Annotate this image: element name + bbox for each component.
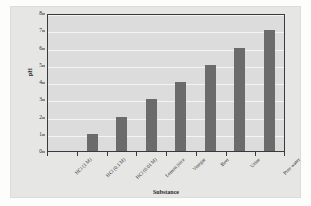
- bar: [146, 99, 157, 151]
- x-axis-tick-label: HCl (1 M): [74, 157, 92, 175]
- bar-slot: [255, 15, 285, 151]
- x-axis-tick-label: Vinegar: [192, 157, 207, 172]
- x-axis-title: Substance: [47, 189, 285, 195]
- bar-slot: [78, 15, 108, 151]
- bars-layer: [48, 15, 284, 151]
- bar: [264, 30, 275, 151]
- y-axis-tick-mark: [42, 152, 45, 153]
- bar: [234, 48, 245, 152]
- bar-slot: [137, 15, 167, 151]
- x-axis-tick-label: HCl (0.01 M): [135, 157, 158, 180]
- bar: [116, 117, 127, 152]
- y-axis-ticks: 012345678: [25, 14, 45, 152]
- chart-panel: pH 012345678 HCl (1 M)HCl (0.1 M)HCl (0.…: [11, 7, 300, 197]
- y-axis-tick-mark: [42, 14, 45, 15]
- x-axis-tick-label: Urine: [250, 157, 262, 169]
- bar-slot: [196, 15, 226, 151]
- x-axis-labels: HCl (1 M)HCl (0.1 M)HCl (0.01 M)Lemon ju…: [47, 154, 285, 186]
- bar-slot: [48, 15, 78, 151]
- y-axis-tick-mark: [42, 100, 45, 101]
- bar-slot: [166, 15, 196, 151]
- bar-slot: [225, 15, 255, 151]
- x-axis-tick-label: Lemon juice: [164, 157, 185, 178]
- y-axis-tick-mark: [42, 117, 45, 118]
- chart-figure: pH 012345678 HCl (1 M)HCl (0.1 M)HCl (0.…: [0, 0, 311, 206]
- bar: [175, 82, 186, 151]
- plot-area: [47, 14, 285, 152]
- bar: [205, 65, 216, 151]
- y-axis-tick-mark: [42, 65, 45, 66]
- x-axis-tick-label: Pure water: [282, 157, 301, 176]
- x-axis-tick-label: Beer: [219, 157, 229, 167]
- y-axis-tick-mark: [42, 134, 45, 135]
- bar-slot: [107, 15, 137, 151]
- bar: [87, 134, 98, 151]
- x-axis-tick-label: HCl (0.1 M): [105, 157, 126, 178]
- y-axis-tick-mark: [42, 48, 45, 49]
- y-axis-tick-mark: [42, 83, 45, 84]
- y-axis-tick-mark: [42, 31, 45, 32]
